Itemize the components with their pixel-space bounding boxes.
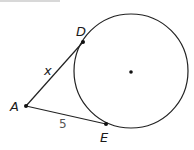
label-A: A [9,99,19,114]
label-D: D [76,24,86,39]
circle-center-dot [129,70,133,74]
label-5: 5 [59,117,67,131]
label-x: x [43,63,52,78]
diagram-canvas: D x A 5 E [0,0,194,150]
cropped-text-fragment [0,0,60,2]
label-E: E [100,130,109,145]
point-D [81,40,85,44]
point-E [104,122,108,126]
point-A [24,104,28,108]
